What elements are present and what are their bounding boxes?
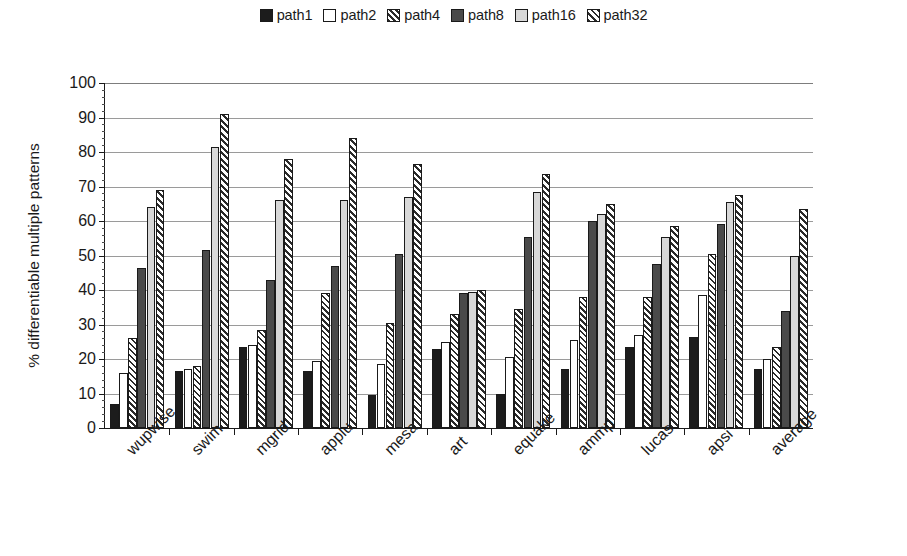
bar-mgrid-path1 — [239, 347, 248, 428]
bar-equake-path32 — [542, 174, 551, 428]
plot-area: 0102030405060708090100 — [104, 83, 813, 429]
bar-equake-path16 — [533, 192, 542, 428]
bar-equake-path2 — [505, 357, 514, 428]
bar-swim-path16 — [211, 147, 220, 428]
bar-mesa-path32 — [413, 164, 422, 428]
bar-average-path1 — [754, 369, 763, 428]
bar-applu-path16 — [340, 200, 349, 428]
bar-group-art — [427, 83, 491, 428]
bar-swim-path2 — [184, 369, 193, 428]
bar-applu-path1 — [303, 371, 312, 428]
bar-applu-path8 — [331, 266, 340, 428]
bar-group-mesa — [362, 83, 426, 428]
bar-ammp-path8 — [588, 221, 597, 428]
bar-average-path32 — [799, 209, 808, 428]
bar-lucas-path32 — [670, 226, 679, 428]
bar-swim-path1 — [175, 371, 184, 428]
bar-group-applu — [298, 83, 362, 428]
bar-average-path16 — [790, 256, 799, 429]
y-tick-label: 20 — [78, 350, 96, 368]
bar-apsi-path1 — [689, 337, 698, 428]
bar-group-lucas — [620, 83, 684, 428]
bar-lucas-path2 — [634, 335, 643, 428]
bar-mesa-path2 — [377, 364, 386, 428]
bar-art-path32 — [477, 290, 486, 428]
bar-apsi-path16 — [726, 202, 735, 428]
bar-swim-path4 — [193, 366, 202, 428]
y-tick-mark — [99, 428, 105, 429]
x-axis-labels: wupwiseswimmgridapplumesaartequakeammplu… — [104, 432, 812, 552]
y-tick-label: 50 — [78, 247, 96, 265]
bar-ammp-path2 — [570, 340, 579, 428]
x-axis-label-art: art — [445, 433, 471, 459]
bar-applu-path32 — [349, 138, 358, 428]
bar-average-path8 — [781, 311, 790, 428]
bar-art-path4 — [450, 314, 459, 428]
bar-group-wupwise — [105, 83, 169, 428]
bar-ammp-path16 — [597, 214, 606, 428]
bar-group-apsi — [684, 83, 748, 428]
bar-mesa-path1 — [368, 395, 377, 428]
y-tick-label: 0 — [87, 419, 96, 437]
bar-art-path16 — [468, 292, 477, 428]
bar-lucas-path8 — [652, 264, 661, 428]
bar-lucas-path1 — [625, 347, 634, 428]
bar-apsi-path32 — [735, 195, 744, 428]
y-tick-label: 80 — [78, 143, 96, 161]
y-tick-label: 70 — [78, 178, 96, 196]
y-tick-label: 30 — [78, 316, 96, 334]
bar-wupwise-path2 — [119, 373, 128, 428]
bar-wupwise-path1 — [110, 404, 119, 428]
bar-mgrid-path8 — [266, 280, 275, 428]
bar-ammp-path1 — [561, 369, 570, 428]
bar-lucas-path4 — [643, 297, 652, 428]
bar-ammp-path32 — [606, 204, 615, 428]
bar-mesa-path4 — [386, 323, 395, 428]
bar-mgrid-path4 — [257, 330, 266, 428]
bar-wupwise-path16 — [147, 207, 156, 428]
y-tick-label: 40 — [78, 281, 96, 299]
bar-mgrid-path32 — [284, 159, 293, 428]
bar-group-mgrid — [234, 83, 298, 428]
bar-wupwise-path4 — [128, 338, 137, 428]
bar-group-swim — [169, 83, 233, 428]
bar-chart: path1path2path4path8path16path32 % diffe… — [0, 0, 907, 556]
bar-average-path2 — [763, 359, 772, 428]
bar-applu-path2 — [312, 361, 321, 428]
bar-groups — [105, 83, 813, 428]
bar-equake-path1 — [496, 394, 505, 429]
bar-apsi-path8 — [717, 224, 726, 428]
bar-mgrid-path2 — [248, 345, 257, 428]
bar-art-path2 — [441, 342, 450, 428]
bar-wupwise-path8 — [137, 268, 146, 428]
bar-swim-path32 — [220, 114, 229, 428]
bar-lucas-path16 — [661, 237, 670, 428]
bar-art-path1 — [432, 349, 441, 428]
bar-ammp-path4 — [579, 297, 588, 428]
bar-wupwise-path32 — [156, 190, 165, 428]
bar-mgrid-path16 — [275, 200, 284, 428]
bar-equake-path8 — [524, 237, 533, 428]
bar-apsi-path2 — [698, 295, 707, 428]
bar-mesa-path8 — [395, 254, 404, 428]
bar-art-path8 — [459, 293, 468, 428]
bar-average-path4 — [772, 347, 781, 428]
bar-equake-path4 — [514, 309, 523, 428]
bar-group-ammp — [556, 83, 620, 428]
bar-apsi-path4 — [708, 254, 717, 428]
bar-swim-path8 — [202, 250, 211, 428]
y-tick-label: 90 — [78, 109, 96, 127]
y-tick-label: 100 — [69, 74, 96, 92]
bar-applu-path4 — [321, 293, 330, 428]
bar-group-equake — [491, 83, 555, 428]
bar-group-average — [749, 83, 813, 428]
bar-mesa-path16 — [404, 197, 413, 428]
y-tick-label: 60 — [78, 212, 96, 230]
y-tick-label: 10 — [78, 385, 96, 403]
